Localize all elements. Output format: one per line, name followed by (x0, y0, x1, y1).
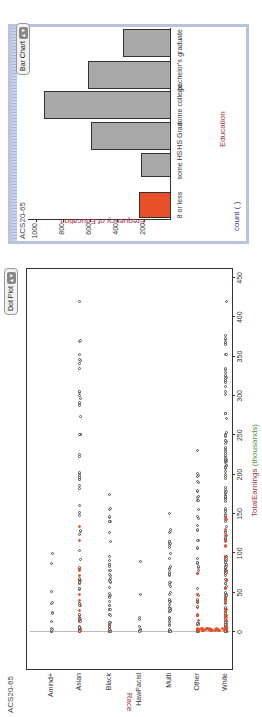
count-label[interactable]: count ( ) (232, 202, 241, 231)
data-point (196, 561, 199, 564)
data-point (108, 604, 111, 607)
earnings-tick: 350 (236, 349, 243, 365)
data-point (108, 555, 111, 558)
data-point (196, 572, 199, 575)
data-point (168, 624, 171, 627)
data-point (78, 577, 81, 580)
data-point (224, 457, 227, 460)
data-point (108, 515, 111, 518)
data-point (224, 514, 227, 517)
dot-plot-area[interactable] (26, 268, 233, 670)
data-point (51, 552, 54, 555)
tick-mark (232, 434, 235, 435)
race-label: Other (193, 673, 200, 711)
data-point (224, 486, 227, 489)
data-point (224, 610, 227, 613)
earnings-tick: 100 (236, 545, 243, 561)
data-point (108, 565, 111, 568)
data-point (108, 493, 111, 496)
race-label: Asian (75, 673, 82, 711)
race-axis-title: Race (125, 687, 134, 717)
data-point (51, 601, 54, 604)
bar-bachelor-s[interactable] (88, 61, 171, 89)
earnings-unit: (thousands) (250, 424, 259, 466)
data-point (78, 617, 81, 620)
tick-mark (232, 316, 235, 317)
data-point (224, 606, 227, 609)
data-point (108, 586, 111, 589)
bar-some-hs[interactable] (141, 153, 171, 177)
data-point (79, 415, 82, 418)
data-point (224, 367, 227, 370)
dot-plot-type-menu[interactable]: Dot Plot▲▼ (4, 268, 18, 315)
data-point (196, 539, 199, 542)
data-point (197, 474, 200, 477)
data-point (224, 510, 227, 513)
data-point (139, 593, 142, 596)
tick-mark (232, 356, 235, 357)
data-point (108, 621, 111, 624)
bar-some-college[interactable] (44, 91, 171, 119)
education-label: graduate (176, 18, 183, 68)
tick-mark (232, 552, 235, 553)
data-point (50, 562, 53, 565)
bar-chart-control-label: Bar Chart (19, 41, 26, 71)
bar-8-or-less[interactable] (139, 192, 171, 218)
earnings-tick: 300 (236, 388, 243, 404)
data-point (78, 593, 81, 596)
bar-graduate[interactable] (123, 29, 171, 57)
data-point (224, 412, 227, 415)
data-point (78, 367, 81, 370)
data-point (78, 568, 81, 571)
data-point (138, 616, 141, 619)
data-point (78, 549, 81, 552)
data-point (225, 594, 228, 597)
data-point (168, 540, 171, 543)
data-point (196, 587, 199, 590)
data-point (196, 546, 199, 549)
data-point (196, 613, 199, 616)
data-point (78, 476, 81, 479)
education-axis-title: Education (218, 111, 227, 147)
earnings-tick: 250 (236, 427, 243, 443)
data-point (78, 613, 81, 616)
earnings-tick: 200 (236, 467, 243, 483)
data-point (78, 471, 81, 474)
data-point (225, 571, 228, 574)
data-point (169, 530, 172, 533)
data-point (109, 608, 112, 611)
data-point (79, 558, 82, 561)
data-point (224, 466, 227, 469)
data-point (224, 393, 227, 396)
bar-hs-grad[interactable] (91, 122, 171, 150)
data-point (225, 417, 228, 420)
data-point (51, 612, 54, 615)
data-point (78, 581, 81, 584)
stepper-arrows-icon: ▲▼ (7, 272, 16, 284)
data-point (224, 379, 227, 382)
data-point (108, 596, 111, 599)
data-point (79, 397, 82, 400)
data-point (78, 587, 81, 590)
data-point (196, 528, 199, 531)
data-point (108, 573, 111, 576)
tick-mark (36, 219, 37, 222)
data-point (109, 507, 112, 510)
earnings-tick: 400 (236, 309, 243, 325)
data-point (196, 600, 199, 603)
data-point (139, 560, 142, 563)
data-point (224, 495, 227, 498)
data-point (224, 334, 227, 337)
data-point (108, 600, 111, 603)
data-point (138, 625, 141, 628)
data-point (224, 531, 227, 534)
data-point (224, 544, 227, 547)
data-point (225, 585, 228, 588)
data-point (78, 433, 81, 436)
race-label: White (221, 673, 228, 711)
frequency-tick: 1000 (31, 223, 38, 241)
data-point (224, 601, 227, 604)
data-point (197, 499, 200, 502)
data-point (138, 630, 141, 633)
frequency-tick: 200 (139, 223, 146, 241)
